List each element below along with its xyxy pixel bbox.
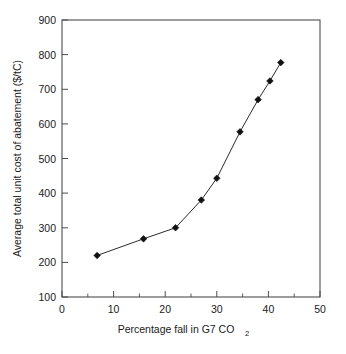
- y-tick-labels: 900 800 700 600 500 400 300 200 100: [38, 14, 56, 303]
- series-markers: [94, 59, 284, 258]
- data-point-marker: [237, 129, 244, 136]
- y-tick-marks: [62, 20, 68, 297]
- data-point-marker: [214, 175, 221, 182]
- x-tick-label: 20: [159, 303, 171, 315]
- y-tick-label: 800: [38, 49, 56, 61]
- data-point-marker: [255, 96, 262, 103]
- chart-figure: 900 800 700 600 500 400 300 200 100 0 10…: [0, 0, 346, 354]
- x-axis-title-subscript: 2: [245, 329, 249, 338]
- y-tick-label: 700: [38, 83, 56, 95]
- y-tick-label: 600: [38, 118, 56, 130]
- x-tick-label: 40: [263, 303, 275, 315]
- y-tick-label: 500: [38, 153, 56, 165]
- data-point-marker: [140, 236, 147, 243]
- y-tick-label: 400: [38, 187, 56, 199]
- data-point-marker: [267, 78, 274, 85]
- x-axis-title-text: Percentage fall in G7 CO: [118, 323, 235, 335]
- y-axis-title: Average total unit cost of abatement ($/…: [11, 60, 23, 257]
- data-point-marker: [277, 59, 284, 66]
- y-tick-label: 900: [38, 14, 56, 26]
- x-tick-label: 10: [108, 303, 120, 315]
- x-tick-label: 30: [211, 303, 223, 315]
- x-tick-labels: 0 10 20 30 40 50: [59, 303, 326, 315]
- y-tick-label: 100: [38, 291, 56, 303]
- line-chart: 900 800 700 600 500 400 300 200 100 0 10…: [0, 0, 346, 354]
- data-series: [94, 59, 284, 258]
- x-tick-label: 0: [59, 303, 65, 315]
- data-point-marker: [94, 252, 101, 259]
- x-tick-label: 50: [314, 303, 326, 315]
- y-tick-label: 300: [38, 222, 56, 234]
- x-axis-title: Percentage fall in G7 CO 2: [118, 323, 250, 338]
- y-tick-label: 200: [38, 256, 56, 268]
- series-line: [97, 63, 281, 256]
